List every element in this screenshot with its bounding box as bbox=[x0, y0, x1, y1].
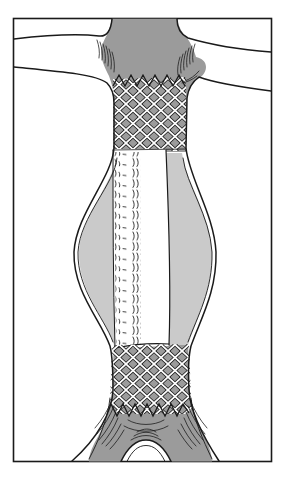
medical-illustration bbox=[0, 0, 284, 486]
figure-canvas bbox=[0, 0, 284, 486]
distal-stent-mesh bbox=[110, 344, 193, 416]
proximal-stent-mesh bbox=[113, 75, 186, 151]
left-renal-artery-upper-wall bbox=[14, 19, 112, 39]
graft-crimp-texture bbox=[114, 152, 141, 347]
